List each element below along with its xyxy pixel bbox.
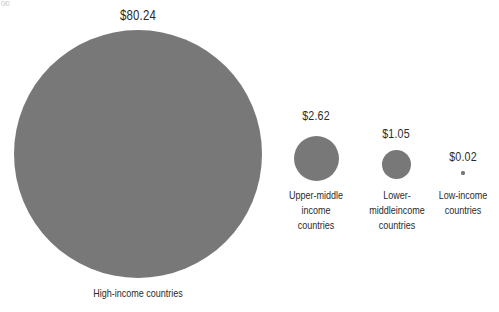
category-label-upper-middle-income: Upper-middle income countries	[280, 188, 352, 233]
value-label-upper-middle-income: $2.62	[283, 108, 349, 123]
category-label-line: countries	[429, 203, 498, 218]
category-label-line: Upper-middle	[280, 188, 352, 203]
category-label-high-income: High-income countries	[72, 286, 203, 301]
cropped-corner-artifact: 0/0	[1, 0, 19, 6]
bubble-upper-middle-income[interactable]	[294, 136, 339, 181]
bubble-low-income[interactable]	[461, 171, 464, 174]
category-label-line: countries	[280, 218, 352, 233]
bubble-lower-middle-income[interactable]	[382, 150, 411, 179]
category-label-line: countries	[362, 218, 433, 233]
category-label-lower-middle-income: Lower- middleincome countries	[362, 188, 433, 233]
bubble-chart: 0/0 $80.24 High-income countries $2.62 U…	[0, 0, 499, 312]
value-label-high-income: $80.24	[97, 7, 179, 23]
value-label-lower-middle-income: $1.05	[363, 126, 429, 141]
value-label-low-income: $0.02	[430, 149, 496, 164]
bubble-high-income[interactable]	[14, 30, 262, 278]
category-label-low-income: Low-income countries	[429, 188, 498, 218]
category-label-line: Lower-	[362, 188, 433, 203]
category-label-line: income	[280, 203, 352, 218]
category-label-line: High-income countries	[72, 286, 203, 301]
category-label-line: Low-income	[429, 188, 498, 203]
category-label-line: middleincome	[362, 203, 433, 218]
